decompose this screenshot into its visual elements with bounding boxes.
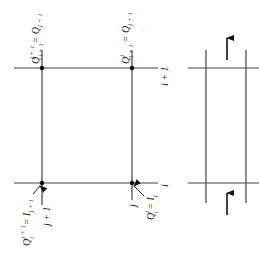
column-label-j: j — [127, 204, 138, 209]
label-bottom-left: Qj + 1i= Ij + 1 — [19, 199, 36, 246]
node-bottom-left — [40, 181, 44, 185]
label-bottom-right: Qji= Ij — [143, 195, 160, 220]
column-label-j-plus-1: j + 1 — [41, 206, 52, 228]
svg-text:Qji + 1= Qj + 1: Qji + 1= Qj + 1 — [118, 12, 135, 64]
row-label-i: i — [159, 184, 170, 187]
node-top-right — [130, 66, 134, 70]
node-top-left — [40, 66, 44, 70]
svg-text:Qi + 1j + 1= Qj + 1: Qi + 1j + 1= Qj + 1 — [28, 13, 45, 64]
svg-text:i: i — [159, 184, 170, 187]
node-pointers — [33, 186, 144, 196]
svg-text:i + 1: i + 1 — [159, 66, 170, 86]
left-grid — [14, 50, 158, 205]
node-bottom-right — [130, 181, 134, 185]
label-top-right: Qji + 1= Qj + 1 — [118, 12, 135, 64]
svg-text:Qj + 1i= Ij + 1: Qj + 1i= Ij + 1 — [19, 199, 36, 246]
svg-text:j: j — [127, 204, 138, 209]
label-top-left: Qi + 1j + 1= Qj + 1 — [28, 13, 45, 64]
svg-text:Qji= Ij: Qji= Ij — [143, 195, 160, 220]
pointer-bottom-left — [33, 186, 40, 194]
svg-text:j + 1: j + 1 — [41, 206, 52, 228]
grid-nodes — [40, 66, 134, 185]
pointer-bottom-right — [134, 186, 144, 196]
right-grid — [188, 50, 259, 203]
grid-diagram: Qi + 1j + 1= Qj + 1 Qji + 1= Qj + 1 Qj +… — [0, 0, 259, 268]
row-label-i-plus-1: i + 1 — [159, 66, 170, 86]
